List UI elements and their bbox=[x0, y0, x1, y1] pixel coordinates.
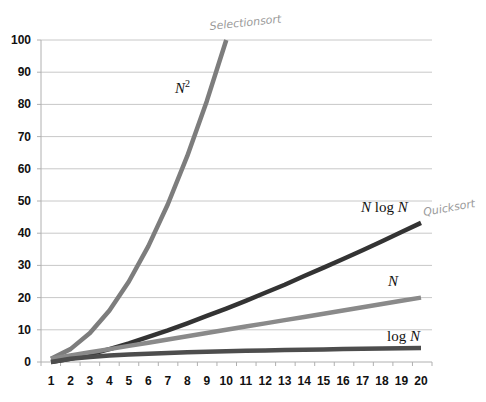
y-tick-label: 50 bbox=[18, 194, 32, 208]
x-tick-label: 18 bbox=[375, 374, 389, 388]
x-tick-label: 12 bbox=[259, 374, 273, 388]
label-n-squared: N2 bbox=[174, 78, 190, 96]
x-tick-label: 10 bbox=[220, 374, 234, 388]
handwritten-quicksort-annotation: Quicksort bbox=[422, 197, 477, 219]
y-axis-tick-labels: 0102030405060708090100 bbox=[11, 33, 31, 369]
x-tick-label: 6 bbox=[145, 374, 152, 388]
y-tick-label: 0 bbox=[24, 355, 31, 369]
x-tick-label: 16 bbox=[336, 374, 350, 388]
y-tick-label: 60 bbox=[18, 162, 32, 176]
x-tick-label: 3 bbox=[87, 374, 94, 388]
x-tick-label: 19 bbox=[395, 374, 409, 388]
handwritten-selectionsort-annotation: Selectionsort bbox=[209, 12, 283, 33]
series-line-n-2 bbox=[51, 40, 226, 359]
x-tick-label: 8 bbox=[184, 374, 191, 388]
y-tick-label: 90 bbox=[18, 65, 32, 79]
y-tick-label: 20 bbox=[18, 291, 32, 305]
x-tick-label: 4 bbox=[106, 374, 113, 388]
label-n: N bbox=[387, 273, 399, 289]
x-tick-label: 9 bbox=[203, 374, 210, 388]
x-tick-label: 15 bbox=[317, 374, 331, 388]
y-tick-label: 40 bbox=[18, 226, 32, 240]
label-n-log-n: N log N bbox=[360, 199, 409, 215]
x-tick-label: 14 bbox=[297, 374, 311, 388]
label-log-n: log N bbox=[387, 328, 421, 344]
x-tick-label: 5 bbox=[126, 374, 133, 388]
gridlines bbox=[41, 40, 432, 330]
x-axis-tick-labels: 1234567891011121314151617181920 bbox=[48, 374, 428, 388]
y-tick-label: 10 bbox=[18, 323, 32, 337]
y-tick-label: 80 bbox=[18, 97, 32, 111]
x-tick-label: 1 bbox=[48, 374, 55, 388]
x-tick-label: 20 bbox=[414, 374, 428, 388]
y-tick-label: 70 bbox=[18, 130, 32, 144]
x-tick-label: 17 bbox=[356, 374, 370, 388]
x-tick-label: 13 bbox=[278, 374, 292, 388]
y-tick-label: 100 bbox=[11, 33, 31, 47]
x-tick-label: 11 bbox=[239, 374, 252, 388]
complexity-line-chart: 0102030405060708090100 12345678910111213… bbox=[0, 0, 486, 402]
series-line-n-log-n bbox=[51, 223, 421, 362]
x-tick-label: 7 bbox=[164, 374, 171, 388]
x-tick-label: 2 bbox=[67, 374, 74, 388]
y-tick-label: 30 bbox=[18, 258, 32, 272]
